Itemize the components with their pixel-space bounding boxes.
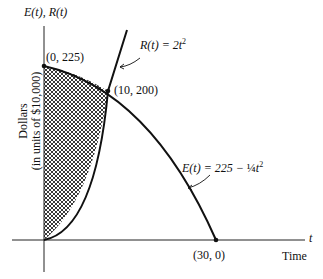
label-0-225: (0, 225) — [46, 50, 84, 65]
point-10-200 — [106, 89, 111, 94]
r-equation: R(t) = 2t2 — [140, 37, 186, 53]
label-30-0: (30, 0) — [193, 248, 225, 263]
x-axis-var: t — [309, 231, 312, 246]
label-10-200: (10, 200) — [114, 83, 158, 98]
y-axis-title: E(t), R(t) — [24, 5, 67, 20]
point-30-0 — [214, 238, 219, 243]
y-axis-label: Dollars (in units of $10,000) — [17, 51, 43, 191]
e-equation: E(t) = 225 − ¼t2 — [182, 160, 263, 176]
x-axis-title: Time — [282, 249, 307, 264]
